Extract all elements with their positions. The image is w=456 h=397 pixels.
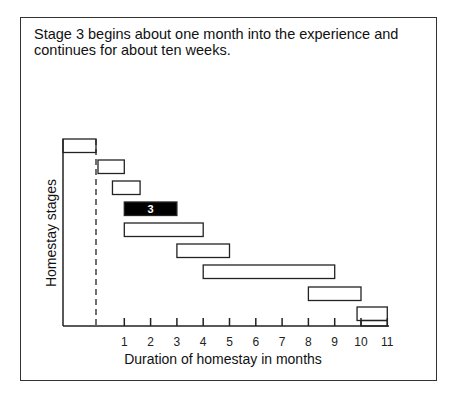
x-tick-label: 10 <box>354 335 368 349</box>
y-axis-title: Homestay stages <box>43 179 59 287</box>
stage-bar-2 <box>112 181 140 195</box>
stage-bar-label: 3 <box>148 203 154 215</box>
stage-bar-4 <box>124 223 203 237</box>
stage-bar-1 <box>98 160 124 174</box>
x-tick-label: 3 <box>174 335 181 349</box>
stage-bar-5 <box>177 244 230 258</box>
stage-bar-0 <box>63 139 96 153</box>
x-tick-label: 5 <box>226 335 233 349</box>
stage-bars: 3 <box>63 139 387 326</box>
stage-bar-6 <box>203 265 335 279</box>
x-axis-title: Duration of homestay in months <box>124 351 322 367</box>
x-tick-label: 7 <box>279 335 286 349</box>
x-tick-label: 2 <box>147 335 154 349</box>
x-tick-label: 1 <box>121 335 128 349</box>
x-tick-label: 11 <box>381 335 394 349</box>
x-tick-label: 4 <box>200 335 207 349</box>
x-ticks: 1234567891011 <box>121 318 394 349</box>
x-tick-label: 6 <box>252 335 259 349</box>
x-tick-label: 9 <box>331 335 338 349</box>
gantt-chart: 3 1234567891011 Duration of homestay in … <box>0 0 456 397</box>
stage-bar-7 <box>308 287 361 301</box>
stage-bar-8-extension <box>361 321 387 327</box>
x-tick-label: 8 <box>305 335 312 349</box>
